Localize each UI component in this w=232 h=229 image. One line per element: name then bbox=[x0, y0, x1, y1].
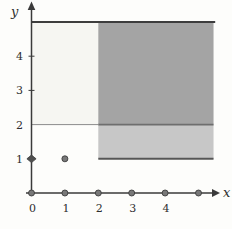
y-tick-label-4: 4 bbox=[16, 50, 23, 63]
point-2-0 bbox=[95, 190, 101, 196]
point-0-0 bbox=[29, 190, 35, 196]
region-lower-right-medium bbox=[98, 125, 213, 159]
x-tick-label-3: 3 bbox=[129, 202, 136, 215]
y-axis-arrow-icon bbox=[28, 2, 36, 11]
point-1-1 bbox=[62, 156, 68, 162]
y-axis-label: y bbox=[10, 4, 19, 19]
x-axis-label: x bbox=[223, 185, 231, 200]
y-tick-label-3: 3 bbox=[16, 84, 23, 97]
point-0-1 bbox=[27, 155, 36, 163]
x-tick-label-2: 2 bbox=[96, 202, 103, 215]
plot-svg: 012341234xy bbox=[0, 0, 232, 229]
y-tick-label-1: 1 bbox=[16, 153, 23, 166]
x-tick-label-1: 1 bbox=[62, 202, 69, 215]
region-upper-left-light bbox=[32, 22, 99, 125]
figure: 012341234xy bbox=[0, 0, 232, 229]
x-axis-arrow-icon bbox=[212, 189, 220, 197]
region-upper-right-dark bbox=[98, 22, 213, 125]
x-tick-label-0: 0 bbox=[29, 202, 36, 215]
point-5-0 bbox=[196, 190, 202, 196]
y-tick-label-2: 2 bbox=[16, 119, 23, 132]
x-tick-label-4: 4 bbox=[163, 202, 170, 215]
point-3-0 bbox=[129, 190, 135, 196]
point-4-0 bbox=[162, 190, 168, 196]
point-1-0 bbox=[62, 190, 68, 196]
